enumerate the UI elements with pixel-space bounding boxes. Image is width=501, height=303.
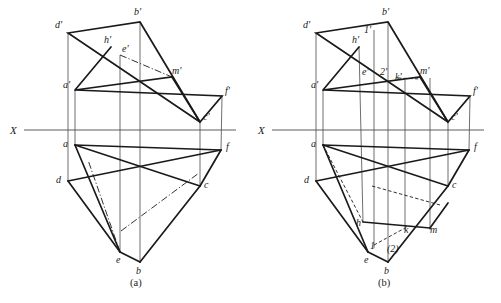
vertex-label-one-prime: 1' [364,24,372,35]
vertex-label-c: c [452,179,457,190]
vertex-label-c-prime: c' [451,111,458,122]
vertex-label-two: (2) [387,243,399,255]
vertex-label-f-prime: f' [473,85,479,96]
vertex-label-one: 1 [370,240,375,251]
vertex-label-e-prime: e' [362,66,369,77]
vertex-label-h-prime: h' [352,34,360,45]
vertex-label-b: b [384,265,389,276]
vertex-label-b: b [136,265,141,276]
vertex-label-m-prime: m' [420,65,430,76]
vertex-label-f-prime: f' [225,85,231,96]
vertex-label-b-prime: b' [134,6,142,17]
vertex-label-d-prime: d' [303,19,311,30]
vertex-label-b-prime: b' [382,6,390,17]
vertex-label-e: e [364,254,369,265]
vertex-label-two-prime: 2' [380,66,388,77]
x-axis-label: X [257,124,266,136]
vertex-label-h: h [356,217,361,228]
vertex-label-a: a [311,138,316,149]
vertex-label-m: m [430,224,437,235]
vertex-label-e-prime: e' [122,43,129,54]
canvas-background [0,0,501,303]
vertex-label-h-prime: h' [104,34,112,45]
vertex-label-k-prime: k' [395,71,402,82]
vertex-label-c: c [204,179,209,190]
figure-caption: (a) [130,277,142,289]
vertex-label-e: e [116,254,121,265]
vertex-label-a: a [63,138,68,149]
figure-sheet: Xd'b'h'e'm'a'f'c'afdceb(a) Xd'b'1'h'e'2'… [0,0,501,303]
vertex-label-a-prime: a' [63,79,71,90]
engineering-drawing-svg: Xd'b'h'e'm'a'f'c'afdceb(a) Xd'b'1'h'e'2'… [0,0,501,303]
vertex-label-d-prime: d' [55,19,63,30]
vertex-label-c-prime: c' [203,111,210,122]
figure-caption: (b) [378,277,391,289]
vertex-label-k: k [404,224,409,235]
vertex-label-a-prime: a' [311,79,319,90]
x-axis-label: X [9,124,18,136]
vertex-label-m-prime: m' [172,65,182,76]
